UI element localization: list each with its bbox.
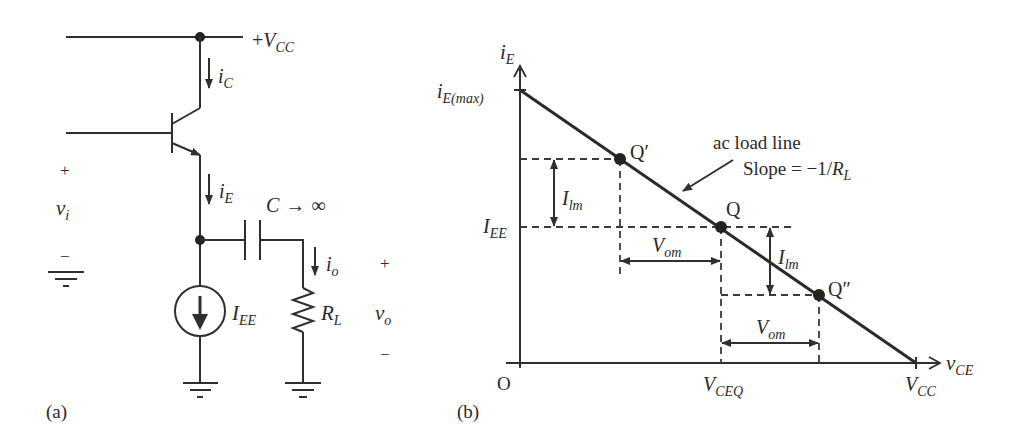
vo-plus: +: [380, 254, 390, 273]
load-line-pointer-icon: [683, 160, 733, 191]
q-label: Q: [726, 198, 741, 220]
io-label: io: [326, 253, 339, 279]
q-prime-label: Q′: [630, 141, 649, 163]
ic-label: iC: [218, 65, 234, 91]
resistor-icon: [293, 288, 313, 332]
capacitor-label: C→∞: [266, 194, 326, 216]
iee-axis-label: IEE: [482, 215, 507, 241]
ie-label: iE: [219, 180, 234, 206]
q-prime-point: [614, 153, 626, 165]
panel-a-label: (a): [46, 401, 67, 423]
y-axis-label: iE: [500, 40, 515, 67]
capacitor-icon: [245, 220, 260, 260]
vom-bottom-label: Vom: [756, 316, 785, 342]
ie-max-label: iE(max): [437, 80, 484, 107]
iee-source-label: IEE: [231, 301, 257, 328]
ilm-left-label: Ilm: [561, 187, 583, 213]
npn-transistor-icon: [66, 108, 200, 155]
current-source-icon: [175, 286, 225, 336]
vcc-label: +VCC: [252, 29, 295, 55]
figure-canvas: +VCC iC iE + vi −: [0, 0, 1025, 436]
q-point: [715, 221, 727, 233]
cap-right-wire: [260, 240, 303, 288]
vi-minus: −: [60, 247, 70, 266]
source-ground-icon: [183, 383, 218, 397]
vo-label: vo: [375, 301, 391, 328]
circuit-schematic: +VCC iC iE + vi −: [46, 29, 391, 423]
q-double-prime-point: [813, 289, 825, 301]
vo-minus: −: [380, 345, 390, 364]
input-ground-icon: [48, 272, 84, 286]
vi-plus: +: [60, 161, 70, 180]
origin-label: O: [497, 373, 511, 394]
load-line-graph: iE vCE O iE(max) IEE VCEQ VCC Q′ Q: [437, 40, 974, 423]
vi-label: vi: [56, 196, 69, 223]
panel-b-label: (b): [457, 401, 479, 423]
q-double-prime-label: Q″: [828, 278, 851, 300]
vceq-label: VCEQ: [703, 373, 743, 399]
load-ground-icon: [285, 383, 321, 397]
rl-label: RL: [320, 301, 342, 328]
vcc-axis-label: VCC: [905, 373, 937, 399]
slope-label: Slope = −1/RL: [743, 158, 852, 183]
load-line-title: ac load line: [713, 132, 801, 153]
vom-top-label: Vom: [652, 234, 681, 260]
x-axis-label: vCE: [946, 351, 974, 378]
